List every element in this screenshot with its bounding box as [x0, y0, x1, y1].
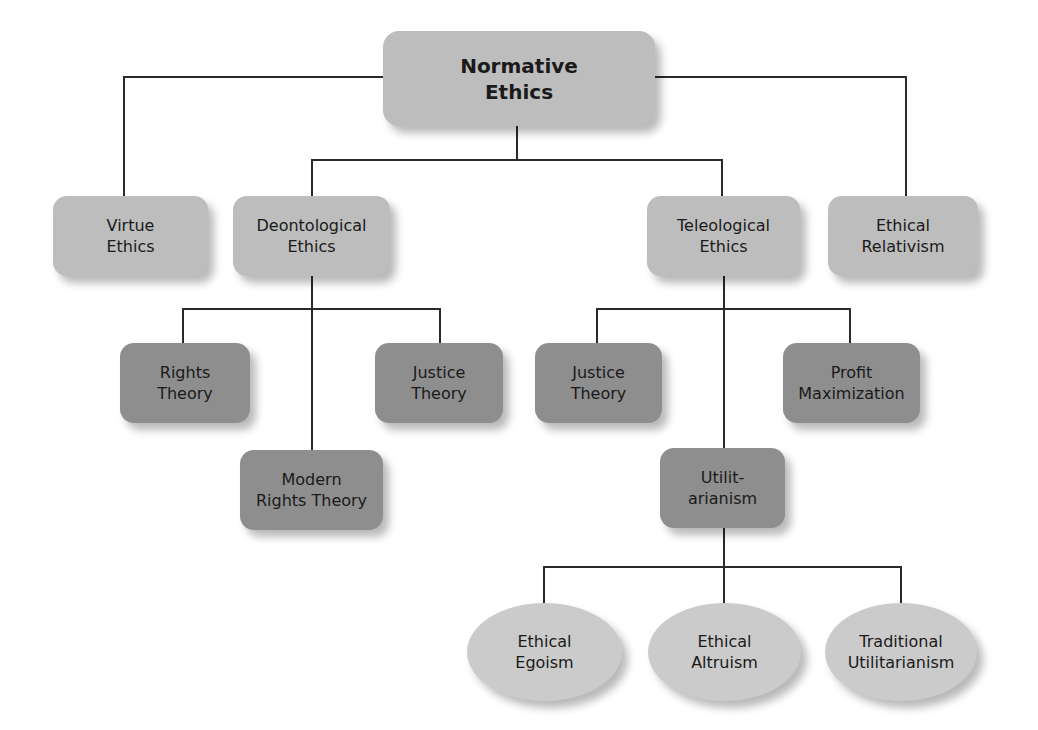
node-label: Relativism	[861, 236, 944, 257]
node-label: Teleological	[677, 215, 770, 236]
node-label: Theory	[571, 383, 627, 404]
node-label: Justice	[572, 362, 625, 383]
node-label: Rights Theory	[256, 490, 367, 511]
node-label: arianism	[688, 488, 757, 509]
connector	[439, 308, 441, 343]
connector	[543, 566, 545, 604]
connector	[596, 308, 598, 343]
node-label: Ethical	[517, 631, 571, 652]
node-label: Normative	[460, 53, 578, 79]
connector	[182, 308, 184, 343]
connector	[905, 76, 907, 196]
node-ethical-egoism: Ethical Egoism	[467, 603, 622, 701]
node-label: Theory	[157, 383, 213, 404]
node-label: Justice	[413, 362, 466, 383]
connector	[311, 159, 723, 161]
connector	[182, 308, 441, 310]
node-deontological-ethics: Deontological Ethics	[233, 196, 390, 276]
node-utilitarianism: Utilit- arianism	[660, 448, 785, 528]
node-normative-ethics: Normative Ethics	[383, 31, 655, 126]
connector	[596, 308, 851, 310]
node-ethical-relativism: Ethical Relativism	[828, 196, 978, 276]
connector	[723, 528, 725, 568]
node-label: Ethics	[699, 236, 747, 257]
node-label: Utilit-	[701, 467, 744, 488]
node-justice-theory-teleological: Justice Theory	[535, 343, 662, 423]
connector	[654, 76, 907, 78]
connector	[123, 76, 384, 78]
connector	[849, 308, 851, 343]
node-label: Modern	[281, 469, 341, 490]
node-modern-rights-theory: Modern Rights Theory	[240, 450, 383, 530]
node-label: Ethics	[287, 236, 335, 257]
node-traditional-utilitarianism: Traditional Utilitarianism	[825, 603, 977, 701]
node-ethical-altruism: Ethical Altruism	[648, 603, 801, 701]
node-teleological-ethics: Teleological Ethics	[647, 196, 800, 276]
connector	[516, 126, 518, 161]
node-virtue-ethics: Virtue Ethics	[53, 196, 208, 276]
connector	[311, 159, 313, 196]
connector	[723, 276, 725, 448]
node-profit-maximization: Profit Maximization	[783, 343, 920, 423]
node-label: Maximization	[798, 383, 904, 404]
connector	[311, 276, 313, 450]
node-label: Altruism	[691, 652, 758, 673]
node-label: Ethical	[697, 631, 751, 652]
connector	[723, 566, 725, 604]
node-rights-theory: Rights Theory	[120, 343, 250, 423]
node-label: Rights	[160, 362, 210, 383]
ethics-tree-diagram: Normative Ethics Virtue Ethics Deontolog…	[0, 0, 1038, 730]
node-label: Ethical	[876, 215, 930, 236]
node-label: Ethics	[485, 79, 553, 105]
node-justice-theory-deontological: Justice Theory	[375, 343, 503, 423]
node-label: Virtue	[107, 215, 155, 236]
node-label: Traditional	[859, 631, 942, 652]
node-label: Egoism	[515, 652, 573, 673]
node-label: Utilitarianism	[848, 652, 955, 673]
node-label: Profit	[831, 362, 873, 383]
connector	[123, 76, 125, 196]
connector	[721, 159, 723, 196]
node-label: Theory	[411, 383, 467, 404]
connector	[900, 566, 902, 604]
node-label: Ethics	[106, 236, 154, 257]
node-label: Deontological	[256, 215, 366, 236]
